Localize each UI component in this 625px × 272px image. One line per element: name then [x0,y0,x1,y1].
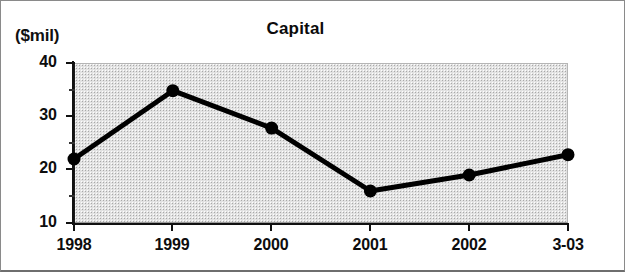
capital-markers [68,84,575,197]
data-point-2001 [364,185,377,198]
data-point-2002 [463,169,476,182]
data-point-3-03 [562,148,575,161]
data-point-1999 [166,84,179,97]
data-point-1998 [68,153,81,166]
data-point-2000 [265,122,278,135]
capital-line [74,91,568,191]
series-layer [1,1,625,272]
chart-figure: ($mil) Capital 40 30 20 10 1998 1999 200… [0,0,625,272]
